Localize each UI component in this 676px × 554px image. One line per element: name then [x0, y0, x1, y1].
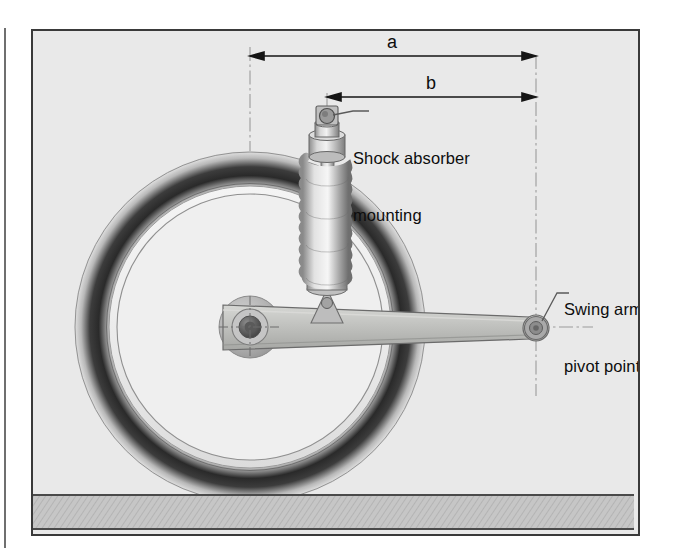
- callout-shock-absorber-mounting: Shock absorber mounting: [353, 111, 470, 263]
- shock-coil-spring: [303, 157, 348, 285]
- swing-arm-pivot-point: [525, 317, 548, 340]
- callout-shock-line2: mounting: [353, 206, 470, 225]
- ground-band: [33, 495, 634, 530]
- page-margin-rule: [4, 28, 6, 548]
- figure-frame: a b Shock absorber mounting Swing arm pi…: [31, 29, 640, 536]
- dimension-label-b: b: [426, 74, 436, 92]
- figure-stage: a b Shock absorber mounting Swing arm pi…: [0, 0, 676, 554]
- callout-pivot-line2: pivot point: [564, 357, 640, 376]
- shock-absorber: [303, 106, 348, 323]
- callout-pivot-line1: Swing arm: [564, 300, 640, 319]
- shock-absorber-mounting-eye: [316, 106, 338, 125]
- dimension-a: [250, 52, 536, 60]
- dimension-b: [327, 93, 536, 101]
- callout-shock-line1: Shock absorber: [353, 149, 470, 168]
- dimension-label-a: a: [387, 33, 397, 51]
- callout-swing-arm-pivot-point: Swing arm pivot point: [564, 262, 640, 414]
- dimension-lines: [250, 52, 536, 101]
- suspension-diagram-drawing: [33, 31, 634, 530]
